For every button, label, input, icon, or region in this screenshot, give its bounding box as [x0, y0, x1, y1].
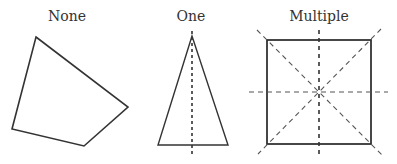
shape-none-quadrilateral	[12, 37, 128, 146]
shape-one-triangle	[158, 31, 228, 154]
symmetry-diagram	[0, 0, 397, 164]
shape-multiple-square	[249, 29, 388, 155]
